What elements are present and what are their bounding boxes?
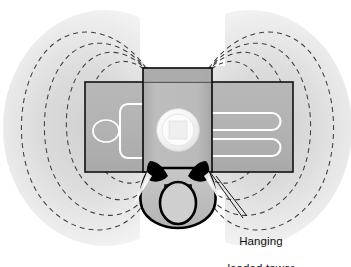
- collimator-aperture: [169, 121, 187, 139]
- right-table-panel: [208, 82, 293, 172]
- callout-label: Hanging leaded tower drapes: [205, 221, 317, 267]
- figure-canvas: Hanging leaded tower drapes: [0, 0, 351, 267]
- operator-head: [160, 182, 196, 224]
- callout-label-line-2: leaded tower: [205, 262, 317, 267]
- operator-figure: [140, 161, 215, 228]
- left-table-panel: [85, 82, 148, 172]
- collimator-housing: [157, 109, 200, 152]
- callout-label-line-1: Hanging: [205, 235, 317, 249]
